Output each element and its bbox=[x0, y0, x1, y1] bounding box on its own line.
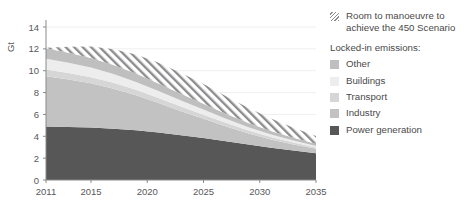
legend-item-label: Buildings bbox=[346, 75, 385, 87]
legend-item-industry: Industry bbox=[330, 107, 464, 119]
x-axis-tick-label: 2030 bbox=[249, 186, 270, 197]
y-axis-tick-label: 8 bbox=[34, 87, 39, 98]
y-axis-tick-label: 6 bbox=[34, 109, 39, 120]
x-axis-tick-label: 2011 bbox=[36, 186, 56, 197]
area-series-group bbox=[46, 46, 316, 180]
color-swatch-icon bbox=[330, 77, 339, 86]
color-swatch-icon bbox=[330, 93, 339, 102]
legend-item-power-generation: Power generation bbox=[330, 124, 464, 136]
hatch-swatch-icon bbox=[330, 12, 339, 21]
y-axis-tick-label: 0 bbox=[34, 175, 39, 186]
color-swatch-icon bbox=[330, 126, 339, 135]
legend-item-room-to-manoeuvre: Room to manoeuvre to achieve the 450 Sce… bbox=[330, 10, 464, 35]
legend-item-label: Power generation bbox=[346, 124, 422, 136]
x-axis-tick-label: 2025 bbox=[193, 186, 214, 197]
x-axis-tick-label: 2020 bbox=[137, 186, 158, 197]
y-axis-title: Gt bbox=[5, 42, 16, 52]
stacked-area-chart: 02468101214 201120152020202520302035 Gt bbox=[0, 0, 330, 218]
legend-item-buildings: Buildings bbox=[330, 75, 464, 87]
x-axis: 201120152020202520302035 bbox=[36, 180, 327, 197]
legend-item-list: OtherBuildingsTransportIndustryPower gen… bbox=[330, 58, 464, 136]
x-axis-tick-label: 2035 bbox=[305, 186, 326, 197]
y-axis-tick-label: 2 bbox=[34, 153, 39, 164]
chart-svg: 02468101214 201120152020202520302035 Gt bbox=[0, 0, 330, 218]
chart-legend: Room to manoeuvre to achieve the 450 Sce… bbox=[330, 10, 464, 140]
legend-item-label: Industry bbox=[346, 107, 380, 119]
y-axis-tick-label: 4 bbox=[34, 131, 39, 142]
y-axis-tick-label: 14 bbox=[28, 22, 39, 33]
color-swatch-icon bbox=[330, 109, 339, 118]
legend-heading: Locked-in emissions: bbox=[330, 42, 464, 54]
legend-item-transport: Transport bbox=[330, 91, 464, 103]
legend-item-label: Room to manoeuvre to achieve the 450 Sce… bbox=[346, 10, 455, 35]
legend-item-other: Other bbox=[330, 58, 464, 70]
y-axis: 02468101214 bbox=[28, 20, 46, 186]
legend-item-label: Transport bbox=[346, 91, 387, 103]
chart-page: 02468101214 201120152020202520302035 Gt … bbox=[0, 0, 464, 218]
legend-item-label: Other bbox=[346, 58, 370, 70]
x-axis-tick-label: 2015 bbox=[80, 186, 101, 197]
color-swatch-icon bbox=[330, 60, 339, 69]
y-axis-tick-label: 10 bbox=[28, 65, 39, 76]
y-axis-tick-label: 12 bbox=[28, 43, 39, 54]
